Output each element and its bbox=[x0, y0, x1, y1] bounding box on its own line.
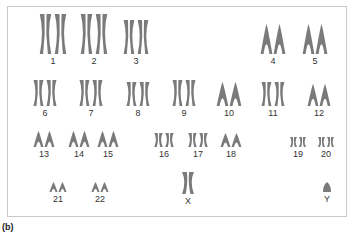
chromosome-icon bbox=[38, 14, 68, 54]
chromosome-label: 6 bbox=[30, 108, 60, 118]
chromosome-label: 16 bbox=[149, 149, 179, 159]
chromosome-label: 7 bbox=[76, 108, 106, 118]
chromosome-pair-16 bbox=[153, 133, 175, 147]
chromosome-icon bbox=[307, 84, 331, 106]
chromosome-label: 10 bbox=[214, 108, 244, 118]
chromosome-icon bbox=[91, 182, 109, 192]
chromosome-icon bbox=[260, 24, 286, 54]
chromosome-pair-Y bbox=[323, 182, 331, 192]
chromosome-label: 5 bbox=[300, 56, 330, 66]
chromosome-pair-19 bbox=[289, 137, 307, 147]
chromosome-pair-4 bbox=[260, 24, 286, 54]
chromosome-icon bbox=[171, 80, 197, 106]
chromosome-pair-20 bbox=[317, 137, 335, 147]
chromosome-icon bbox=[33, 131, 55, 147]
chromosome-icon bbox=[49, 182, 67, 192]
chromosome-label: 15 bbox=[93, 149, 123, 159]
chromosome-label: 4 bbox=[258, 56, 288, 66]
chromosome-label: 18 bbox=[216, 149, 246, 159]
chromosome-icon bbox=[289, 137, 307, 147]
chromosome-label: 19 bbox=[283, 149, 313, 159]
chromosome-icon bbox=[220, 133, 242, 147]
chromosome-pair-6 bbox=[32, 80, 58, 106]
chromosome-label: Y bbox=[312, 194, 342, 204]
chromosome-pair-13 bbox=[33, 131, 55, 147]
chromosome-label: 21 bbox=[43, 194, 73, 204]
chromosome-icon bbox=[260, 82, 286, 106]
chromosome-icon bbox=[323, 182, 331, 192]
chromosome-icon bbox=[302, 24, 328, 54]
chromosome-label: X bbox=[173, 196, 203, 206]
chromosome-label: 17 bbox=[183, 149, 213, 159]
chromosome-label: 1 bbox=[38, 56, 68, 66]
chromosome-icon bbox=[122, 20, 150, 54]
chromosome-icon bbox=[78, 80, 104, 106]
chromosome-pair-18 bbox=[220, 133, 242, 147]
chromosome-icon bbox=[97, 131, 119, 147]
chromosome-label: 9 bbox=[169, 108, 199, 118]
chromosome-pair-5 bbox=[302, 24, 328, 54]
chromosome-pair-14 bbox=[68, 131, 90, 147]
chromosome-label: 12 bbox=[304, 108, 334, 118]
chromosome-pair-10 bbox=[216, 82, 242, 106]
chromosome-label: 22 bbox=[85, 194, 115, 204]
chromosome-pair-17 bbox=[187, 133, 209, 147]
chromosome-pair-1 bbox=[38, 14, 68, 54]
chromosome-pair-X bbox=[181, 172, 195, 194]
chromosome-pair-9 bbox=[171, 80, 197, 106]
chromosome-icon bbox=[68, 131, 90, 147]
chromosome-label: 14 bbox=[64, 149, 94, 159]
chromosome-pair-21 bbox=[49, 182, 67, 192]
chromosome-label: 3 bbox=[121, 56, 151, 66]
chromosome-icon bbox=[32, 80, 58, 106]
chromosome-pair-15 bbox=[97, 131, 119, 147]
chromosome-icon bbox=[317, 137, 335, 147]
chromosome-pair-3 bbox=[122, 20, 150, 54]
chromosome-icon bbox=[187, 133, 209, 147]
chromosome-label: 20 bbox=[311, 149, 341, 159]
chromosome-label: 13 bbox=[29, 149, 59, 159]
chromosome-pair-7 bbox=[78, 80, 104, 106]
chromosome-pair-11 bbox=[260, 82, 286, 106]
chromosome-pair-22 bbox=[91, 182, 109, 192]
chromosome-icon bbox=[181, 172, 195, 194]
figure-label: (b) bbox=[2, 222, 14, 232]
chromosome-pair-8 bbox=[125, 82, 151, 106]
chromosome-pair-12 bbox=[307, 84, 331, 106]
chromosome-icon bbox=[125, 82, 151, 106]
chromosome-label: 2 bbox=[79, 56, 109, 66]
chromosome-pair-2 bbox=[79, 14, 109, 54]
chromosome-label: 8 bbox=[123, 108, 153, 118]
chromosome-icon bbox=[79, 14, 109, 54]
chromosome-icon bbox=[216, 82, 242, 106]
chromosome-icon bbox=[153, 133, 175, 147]
chromosome-label: 11 bbox=[258, 108, 288, 118]
